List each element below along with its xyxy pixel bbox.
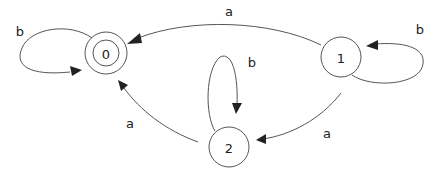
arrowhead-icon <box>256 134 266 144</box>
state-1: 1 <box>321 37 361 77</box>
transition-1-2: a <box>256 93 341 144</box>
edge-path <box>20 29 92 73</box>
state-label: 0 <box>102 47 110 62</box>
edge-label: b <box>248 55 256 70</box>
edge-path <box>124 88 198 142</box>
state-2: 2 <box>209 127 249 167</box>
edge-label: a <box>323 126 331 141</box>
state-0: 0 <box>85 32 127 74</box>
edge-label: a <box>225 4 233 19</box>
transition-2-2: b <box>208 55 256 132</box>
edge-path <box>208 56 237 131</box>
state-label: 2 <box>225 141 233 156</box>
transition-0-0: b <box>16 24 92 77</box>
edge-label: b <box>416 22 424 37</box>
edge-path <box>352 44 423 84</box>
transition-2-0: a <box>118 80 198 142</box>
arrowhead-icon <box>70 66 82 76</box>
transition-1-0: a <box>127 4 321 46</box>
edge-path <box>138 24 321 45</box>
arrowhead-icon <box>366 40 378 50</box>
edge-label: a <box>126 116 134 131</box>
state-label: 1 <box>337 51 345 66</box>
automaton-diagram: b a b b a a 0 1 2 <box>0 0 441 176</box>
edge-label: b <box>16 24 24 39</box>
transition-1-1: b <box>352 22 424 84</box>
arrowhead-icon <box>118 80 128 91</box>
arrowhead-icon <box>127 33 142 44</box>
arrowhead-icon <box>232 103 242 114</box>
